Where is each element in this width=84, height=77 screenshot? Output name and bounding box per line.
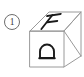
cube-figure: 1 bbox=[0, 0, 84, 77]
cube-drawing-canvas: 1 bbox=[0, 0, 84, 77]
front-face-fill bbox=[30, 31, 64, 67]
index-label-text: 1 bbox=[10, 17, 15, 27]
figure-index-label: 1 bbox=[5, 15, 20, 30]
